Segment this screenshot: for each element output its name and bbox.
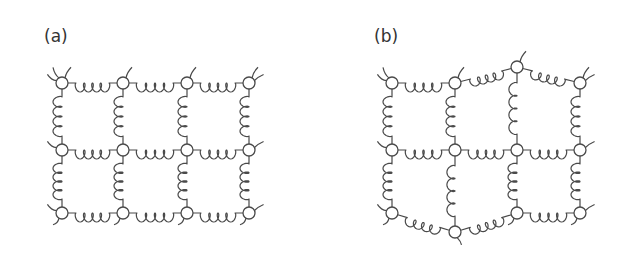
crosslink-node-b-8 [386,207,398,219]
crosslink-node-a-7 [243,144,255,156]
chain-end-b-10-sw [508,218,514,225]
crosslink-node-a-1 [117,77,129,89]
crosslink-node-b-2 [511,61,523,73]
spring-b-0-4 [383,89,392,144]
crosslink-node-b-3 [574,77,586,89]
panel-a-label: (a) [44,28,68,45]
chain-end-a-1-ne [126,67,132,78]
chain-end-b-0-w [377,74,386,80]
spring-a-7-11 [240,156,249,207]
spring-b-4-5 [398,150,449,159]
spring-a-10-11 [193,213,243,222]
spring-b-5-9 [447,156,455,226]
chain-end-b-1-ne [458,67,464,78]
spring-a-2-6 [178,89,187,144]
crosslink-node-a-8 [56,207,68,219]
spring-b-6-7 [523,150,574,159]
chain-end-a-9-sw [114,218,120,225]
spring-a-1-2 [129,83,181,92]
spring-b-2-3 [523,68,574,86]
spring-a-0-4 [53,89,62,144]
chain-end-b-8-w [377,204,386,210]
spring-b-0-1 [398,83,449,92]
spring-lattice-diagram [0,0,625,259]
crosslink-node-a-10 [181,207,193,219]
chain-end-b-7-e [585,141,594,147]
chain-end-b-8-sw [383,218,389,225]
spring-a-3-7 [240,89,249,144]
chain-end-b-2-ne [520,51,526,62]
crosslink-node-a-3 [243,77,255,89]
chain-end-b-4-w [377,141,386,147]
crosslink-node-b-11 [574,207,586,219]
crosslink-node-b-7 [574,144,586,156]
spring-b-10-11 [523,213,574,222]
spring-b-3-7 [571,89,580,144]
crosslink-node-b-0 [386,77,398,89]
chain-end-a-0-ne [65,67,71,78]
crosslink-node-a-11 [243,207,255,219]
crosslink-node-a-9 [117,207,129,219]
crosslink-node-a-2 [181,77,193,89]
crosslink-node-b-5 [449,144,461,156]
crosslink-node-a-5 [117,144,129,156]
chain-end-a-2-ne [190,67,196,78]
spring-b-1-2 [461,68,511,85]
spring-a-0-1 [68,83,117,92]
crosslink-node-b-1 [449,77,461,89]
panel-b-deformed-lattice [377,51,594,245]
spring-a-6-10 [178,156,187,207]
chain-end-b-11-sw [571,218,577,225]
crosslink-node-b-6 [511,144,523,156]
spring-a-1-5 [114,89,123,144]
crosslink-node-b-4 [386,144,398,156]
chain-end-a-11-e [254,204,263,210]
crosslink-node-a-0 [56,77,68,89]
chain-end-b-3-e [585,74,594,80]
crosslink-node-b-9 [449,226,461,238]
spring-a-5-9 [114,156,123,207]
spring-a-4-5 [68,150,117,159]
chain-end-b-0-nw [383,67,389,78]
spring-a-9-10 [129,213,181,222]
chain-end-a-4-w [47,141,56,147]
panel-b-label: (b) [374,28,398,45]
crosslink-node-a-6 [181,144,193,156]
spring-a-6-7 [193,150,243,159]
spring-b-8-9 [398,215,450,234]
panel-a-regular-lattice [47,67,263,224]
chain-end-a-0-w [47,74,56,80]
chain-end-a-8-sw [53,218,59,225]
spring-a-8-9 [68,213,117,222]
spring-b-9-10 [461,215,512,234]
spring-b-4-8 [383,156,392,207]
spring-b-7-11 [571,156,580,207]
crosslink-node-b-10 [511,207,523,219]
spring-b-2-6 [509,73,517,144]
chain-end-b-9-s [457,238,461,245]
chain-end-a-3-ne [252,67,258,78]
spring-b-5-6 [461,150,511,159]
chain-end-a-7-e [254,141,263,147]
crosslink-node-a-4 [56,144,68,156]
spring-a-4-8 [53,156,62,207]
spring-a-5-6 [129,150,181,159]
chain-end-a-3-e [254,74,263,80]
spring-b-1-5 [446,89,455,144]
spring-b-6-10 [508,156,517,207]
chain-end-a-10-sw [178,218,184,225]
chain-end-b-11-e [585,204,594,210]
chain-end-a-11-sw [240,218,246,225]
chain-end-b-3-ne [583,67,589,78]
chain-end-a-0-nw [53,67,59,78]
spring-a-2-3 [193,83,243,92]
chain-end-a-8-w [47,204,56,210]
